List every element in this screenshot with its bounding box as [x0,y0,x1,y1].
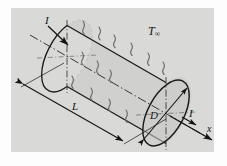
label-current-right: I [189,108,193,119]
label-axis-x: x [207,124,211,134]
cylinder-schematic-svg [0,0,227,166]
label-length: L [72,101,78,112]
label-infinity-subscript: ∞ [155,29,160,38]
label-T-glyph: T [148,24,155,38]
label-current-left: I [45,15,49,26]
current-arrow-left [48,26,68,45]
left-end-face-arc [42,26,67,92]
label-ambient-temperature: T∞ [148,25,160,38]
figure-root: I T∞ L D I x [0,0,227,166]
label-diameter: D [150,110,158,121]
